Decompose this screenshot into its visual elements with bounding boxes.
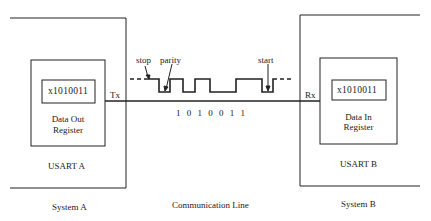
system-a-label: System A xyxy=(52,203,87,212)
annotation-arrows xyxy=(145,64,270,91)
data-in-register-label-2: Register xyxy=(336,123,381,132)
data-in-register-label-1: Data In xyxy=(336,113,381,122)
usart-b-label: USART B xyxy=(340,160,377,169)
tx-pin-label: Tx xyxy=(110,91,120,100)
data-out-register-label-1: Data Out xyxy=(48,115,88,124)
communication-line-label: Communication Line xyxy=(172,201,249,210)
bit-sequence-label: 1 0 1 0 0 1 1 xyxy=(176,109,247,118)
stop-label: stop xyxy=(136,56,151,65)
parity-label: parity xyxy=(160,56,181,65)
data-in-register-value: x1010011 xyxy=(337,86,377,96)
start-label: start xyxy=(258,56,274,65)
data-out-register-label-2: Register xyxy=(48,126,88,135)
usart-a-label: USART A xyxy=(48,162,85,171)
system-b-label: System B xyxy=(341,200,376,209)
data-out-register-value: x1010011 xyxy=(48,87,88,97)
rx-pin-label: Rx xyxy=(305,91,316,100)
